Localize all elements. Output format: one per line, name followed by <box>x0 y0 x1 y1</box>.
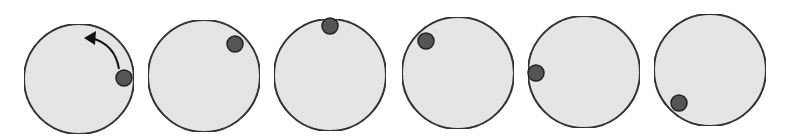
outer-circle <box>148 20 260 132</box>
frame-4 <box>402 17 514 129</box>
outer-circle <box>274 19 386 131</box>
diagram-canvas <box>0 0 785 138</box>
frame-3 <box>274 18 386 131</box>
frame-6 <box>654 14 766 126</box>
outer-circle <box>528 16 640 128</box>
ball <box>116 70 132 86</box>
frames <box>24 14 766 134</box>
outer-circle <box>402 17 514 129</box>
frame-5 <box>528 16 640 128</box>
frame-2 <box>148 20 260 132</box>
ball <box>322 18 338 34</box>
ball <box>227 36 243 52</box>
rotation-diagram <box>0 0 785 138</box>
ball <box>671 95 687 111</box>
ball <box>528 65 544 81</box>
ball <box>418 33 434 49</box>
outer-circle <box>654 14 766 126</box>
frame-1 <box>24 24 134 134</box>
